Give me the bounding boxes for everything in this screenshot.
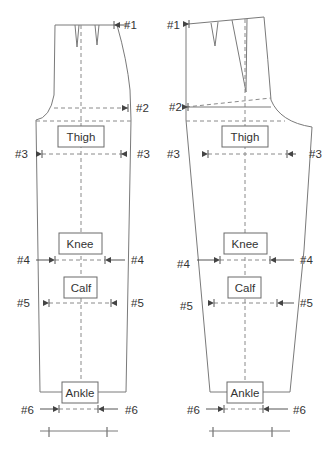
svg-text:Ankle: Ankle [231,387,260,399]
back-label-calf: Calf [228,277,261,298]
svg-text:#3: #3 [137,148,150,160]
front-outline [36,25,131,392]
svg-text:#4: #4 [17,254,30,266]
svg-text:#4: #4 [300,254,313,266]
svg-text:#3: #3 [309,148,322,160]
svg-text:#3: #3 [167,148,180,160]
svg-text:#6: #6 [21,404,34,416]
svg-text:Calf: Calf [71,282,92,294]
svg-text:#4: #4 [177,258,190,270]
svg-text:#6: #6 [125,404,138,416]
svg-text:#2: #2 [136,102,149,114]
svg-text:#6: #6 [293,404,306,416]
svg-text:Knee: Knee [232,238,259,250]
front-label-thigh: Thigh [58,126,104,147]
svg-text:#2: #2 [169,101,182,113]
svg-text:#1: #1 [167,19,180,31]
svg-text:Thigh: Thigh [231,131,260,143]
back-marker-2: #2 [169,101,188,113]
svg-text:Ankle: Ankle [66,387,95,399]
svg-text:#1: #1 [124,19,137,31]
back-pattern-piece [186,17,312,437]
front-pattern-piece [36,25,131,437]
svg-text:Thigh: Thigh [67,131,96,143]
back-label-knee: Knee [224,233,267,254]
back-marker-6: #6 #6 [187,404,306,416]
back-label-thigh: Thigh [222,126,268,147]
svg-text:#6: #6 [187,404,200,416]
front-dart-2 [95,25,99,45]
svg-text:#3: #3 [15,148,28,160]
svg-text:Calf: Calf [235,282,256,294]
front-label-knee: Knee [59,233,102,254]
back-marker-5: #5 #5 [180,297,313,312]
front-marker-1: #1 [114,19,137,31]
front-dart-1 [75,25,79,47]
svg-text:#5: #5 [17,297,30,309]
svg-text:#4: #4 [131,254,144,266]
front-label-ankle: Ankle [62,382,98,403]
front-marker-6: #6 #6 [21,404,138,416]
front-marker-2: #2 [122,102,149,114]
trouser-pattern-diagram: Thigh Knee Calf Ankle Thigh Knee Calf An… [0,0,336,449]
svg-text:#5: #5 [131,297,144,309]
svg-text:Knee: Knee [67,238,94,250]
svg-text:#5: #5 [180,300,193,312]
front-marker-3: #3 #3 [15,148,150,160]
back-outline [186,17,312,392]
back-hip-slant-line [186,98,271,107]
back-label-ankle: Ankle [227,382,263,403]
back-dart-1 [211,22,218,46]
svg-text:#5: #5 [300,297,313,309]
front-label-calf: Calf [64,277,97,298]
